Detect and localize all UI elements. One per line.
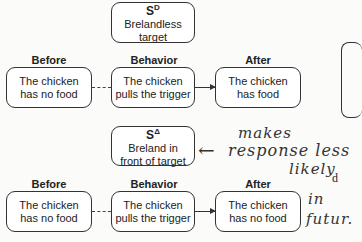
bottom-behavior-box: The chicken pulls the trigger xyxy=(111,191,195,232)
top-dashed-connector xyxy=(92,87,111,88)
sd-text-1: Brelandless xyxy=(124,18,181,31)
sdelta-text-2: front of target xyxy=(120,155,185,168)
bottom-before-box: The chicken has no food xyxy=(6,191,92,232)
top-after-box: The chicken has food xyxy=(215,67,301,108)
handwritten-arrow-icon: ← xyxy=(198,138,216,162)
top-after-label: After xyxy=(215,54,301,66)
top-behavior-line1: The chicken xyxy=(123,75,182,88)
top-after-line1: The chicken xyxy=(228,75,287,88)
top-after-line2: has food xyxy=(237,88,279,101)
sdelta-text-1: Breland in xyxy=(128,142,178,155)
bottom-after-line2: has no food xyxy=(229,212,287,225)
top-behavior-label: Behavior xyxy=(111,54,197,66)
bottom-arrow xyxy=(195,211,215,212)
bottom-dashed-connector xyxy=(92,211,111,212)
top-before-line2: has no food xyxy=(20,88,78,101)
top-arrow xyxy=(195,87,215,88)
cutoff-text: d xyxy=(332,171,338,186)
sdelta-stimulus-box: SΔ Breland in front of target xyxy=(111,126,195,166)
bottom-before-line2: has no food xyxy=(20,212,78,225)
sdelta-symbol: SΔ xyxy=(146,125,160,142)
bottom-after-label: After xyxy=(215,178,301,190)
handwritten-line5: futur. xyxy=(306,210,353,228)
bottom-behavior-label: Behavior xyxy=(111,178,197,190)
sd-stimulus-box: SD Brelandless target xyxy=(111,2,195,43)
bottom-behavior-line2: pulls the trigger xyxy=(115,212,190,225)
partial-box-edge xyxy=(341,42,362,118)
handwritten-line2: response less xyxy=(228,141,350,160)
handwritten-line3: likely xyxy=(289,160,336,178)
handwritten-line1: makes xyxy=(238,124,292,142)
top-before-line1: The chicken xyxy=(19,75,78,88)
sd-text-2: target xyxy=(139,31,167,44)
top-before-label: Before xyxy=(6,54,92,66)
bottom-before-line1: The chicken xyxy=(19,199,78,212)
sd-symbol: SD xyxy=(146,1,160,18)
bottom-after-line1: The chicken xyxy=(228,199,287,212)
top-before-box: The chicken has no food xyxy=(6,67,92,108)
bottom-behavior-line1: The chicken xyxy=(123,199,182,212)
handwritten-line4: in xyxy=(308,190,324,208)
bottom-before-label: Before xyxy=(6,178,92,190)
bottom-after-box: The chicken has no food xyxy=(215,191,301,232)
top-behavior-line2: pulls the trigger xyxy=(115,88,190,101)
top-behavior-box: The chicken pulls the trigger xyxy=(111,67,195,108)
